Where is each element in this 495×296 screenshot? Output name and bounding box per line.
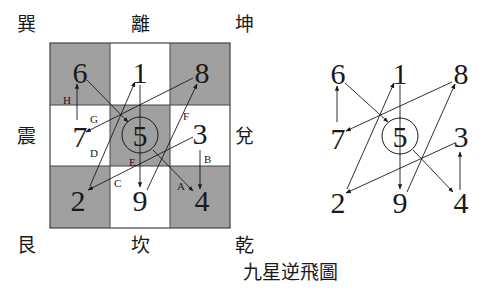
star-7: 7 — [73, 120, 88, 153]
simple-star-3: 3 — [454, 120, 469, 153]
simple-arrow-6-5 — [345, 83, 388, 122]
star-9: 9 — [133, 184, 148, 217]
simple-arrow-5-4 — [413, 150, 453, 192]
label-h: H — [63, 94, 71, 106]
star-4: 4 — [195, 184, 210, 217]
simple-star-8: 8 — [454, 57, 469, 90]
label-f: F — [183, 110, 189, 122]
star-3: 3 — [193, 117, 208, 150]
simple-arrow-2-1 — [347, 83, 394, 189]
label-b: B — [204, 153, 211, 165]
figure-caption: 九星逆飛圖 — [200, 261, 380, 283]
simple-arrow-9-8 — [407, 84, 455, 192]
star-6: 6 — [73, 56, 88, 89]
label-a: A — [177, 180, 185, 192]
simple-star-7: 7 — [331, 122, 346, 155]
star-1: 1 — [133, 56, 148, 89]
simple-star-2: 2 — [331, 186, 346, 219]
simple-star-9: 9 — [393, 186, 408, 219]
simple-star-6: 6 — [331, 57, 346, 90]
label-g: G — [90, 113, 98, 125]
star-2: 2 — [71, 184, 86, 217]
label-e: E — [129, 156, 136, 168]
lo-shu-grid: 6 1 8 7 5 3 2 9 4 A B C D E F G H — [50, 43, 230, 228]
label-d: D — [90, 147, 98, 159]
label-c: C — [114, 177, 121, 189]
simple-star-4: 4 — [454, 186, 469, 219]
flying-stars-diagram: 6 1 8 7 5 3 2 9 4 A B C D E F G H 6 — [0, 0, 495, 296]
simplified-diagram: 6 1 8 7 5 3 2 9 4 — [331, 57, 469, 219]
